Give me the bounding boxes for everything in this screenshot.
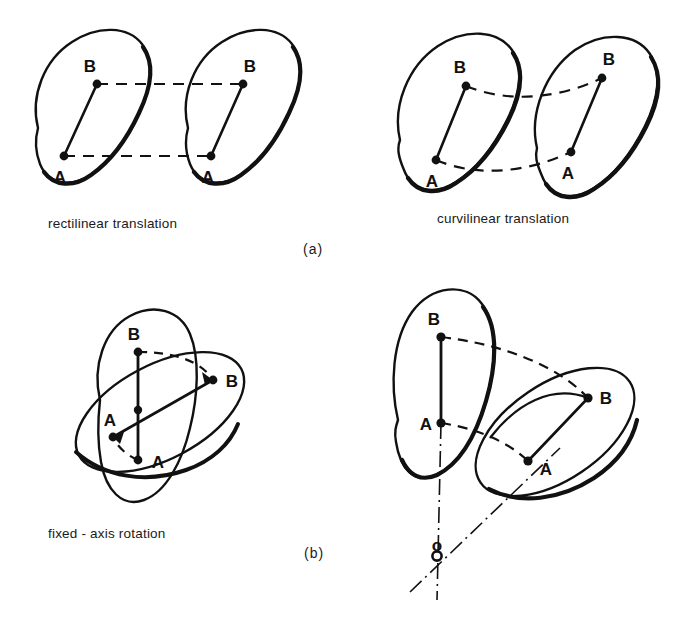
point-label-a-left: A bbox=[426, 172, 438, 191]
body-chord-rotated bbox=[490, 393, 588, 438]
point-a-initial bbox=[134, 456, 143, 465]
point-b-initial bbox=[436, 332, 445, 341]
point-label-b-initial: B bbox=[428, 310, 440, 329]
point-b-rotated bbox=[209, 376, 218, 385]
translation-path-a bbox=[436, 152, 571, 171]
point-a-right bbox=[567, 148, 576, 157]
point-label-b-initial: B bbox=[128, 325, 140, 344]
segment-ab-rotated bbox=[528, 398, 588, 461]
rotation-arc-b bbox=[441, 337, 588, 398]
body-outline-right bbox=[535, 37, 657, 196]
point-b-rotated bbox=[583, 393, 592, 402]
point-label-a-rotated: A bbox=[104, 411, 116, 430]
point-label-b-right: B bbox=[603, 50, 615, 69]
point-b-right bbox=[239, 80, 248, 89]
segment-ab-left bbox=[64, 84, 97, 156]
point-b-right bbox=[598, 74, 607, 83]
body-outline-left-thick-edge bbox=[44, 47, 150, 184]
panel-fixed-axis-rotation: B A B A bbox=[57, 310, 264, 502]
segment-ab-left bbox=[436, 86, 466, 160]
translation-path-b bbox=[466, 78, 602, 97]
caption-curvilinear-translation: curvilinear translation bbox=[437, 211, 569, 226]
point-a-rotated bbox=[523, 456, 532, 465]
rotation-center bbox=[134, 406, 142, 414]
point-label-a-right: A bbox=[562, 164, 574, 183]
point-label-b-left: B bbox=[454, 58, 466, 77]
caption-fixed-axis-rotation: fixed - axis rotation bbox=[48, 526, 166, 541]
point-label-a-left: A bbox=[54, 168, 66, 187]
point-label-pivot-o: o bbox=[432, 536, 442, 555]
caption-rectilinear-translation: rectilinear translation bbox=[48, 216, 177, 231]
point-a-right bbox=[207, 152, 216, 161]
segment-ab-right bbox=[571, 78, 602, 152]
point-a-left bbox=[432, 156, 441, 165]
panel-rectilinear-translation: B A B A bbox=[36, 30, 300, 187]
body-outline-initial-thick-edge bbox=[402, 307, 494, 478]
point-b-left bbox=[462, 82, 471, 91]
point-label-b-rotated: B bbox=[226, 372, 238, 391]
rotation-arc-a bbox=[441, 423, 528, 461]
point-a-initial bbox=[436, 418, 445, 427]
point-label-b-left: B bbox=[84, 57, 96, 76]
body-outline-left bbox=[36, 30, 150, 183]
point-a-rotated bbox=[109, 433, 118, 442]
centerline-vertical bbox=[437, 423, 441, 600]
point-label-a-initial: A bbox=[152, 453, 164, 472]
segment-ab-rotated bbox=[113, 380, 213, 437]
group-marker-a: (a) bbox=[303, 241, 323, 257]
centerline-oblique bbox=[410, 448, 560, 592]
point-label-a-rotated: A bbox=[540, 460, 552, 479]
point-b-initial bbox=[134, 348, 143, 357]
body-outline-right bbox=[186, 30, 300, 183]
group-marker-b: (b) bbox=[304, 545, 324, 561]
body-outline-rotated-thick-edge bbox=[489, 420, 637, 498]
point-label-b-right: B bbox=[244, 57, 256, 76]
point-a-left bbox=[60, 152, 69, 161]
point-b-left bbox=[93, 80, 102, 89]
panel-general-plane-motion: B A B A o bbox=[394, 289, 657, 600]
segment-ab-right bbox=[211, 84, 243, 156]
rigid-body-motion-figure: B A B A B A B A bbox=[0, 0, 680, 631]
point-label-a-right: A bbox=[202, 168, 214, 187]
point-label-b-rotated: B bbox=[600, 389, 612, 408]
point-label-a-initial: A bbox=[420, 415, 432, 434]
panel-curvilinear-translation: B A B A bbox=[398, 34, 658, 198]
